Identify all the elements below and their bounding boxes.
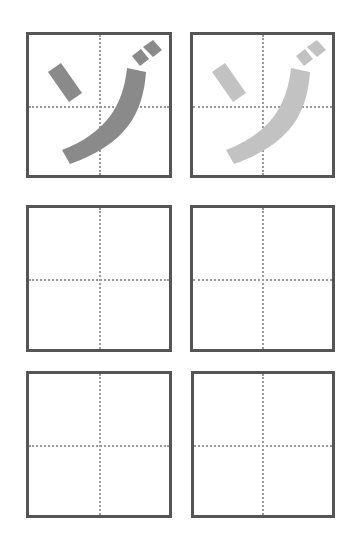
- practice-box-blank[interactable]: [190, 205, 335, 352]
- practice-box-blank[interactable]: [26, 371, 172, 518]
- stroke-short: [48, 63, 82, 102]
- dakuten-mark-1: [132, 49, 149, 66]
- guide-line-vertical: [99, 374, 101, 515]
- stroke-long: [62, 68, 146, 164]
- practice-box-blank[interactable]: [26, 205, 172, 352]
- guide-line-vertical: [99, 208, 101, 349]
- practice-box-trace: [190, 32, 335, 178]
- guide-line-vertical: [262, 374, 264, 515]
- guide-line-horizontal: [29, 279, 169, 281]
- katakana-zo-glyph-dark: [26, 32, 172, 178]
- handwriting-practice-sheet: [0, 0, 354, 549]
- practice-box-blank[interactable]: [191, 371, 335, 518]
- dakuten-mark-2: [143, 40, 162, 57]
- guide-line-horizontal: [194, 445, 332, 447]
- guide-line-horizontal: [29, 445, 169, 447]
- dakuten-mark-1: [296, 49, 313, 66]
- stroke-short: [212, 63, 246, 102]
- practice-box-model: [26, 32, 172, 178]
- guide-line-vertical: [262, 208, 264, 349]
- katakana-zo-glyph-light: [190, 32, 336, 178]
- guide-line-horizontal: [193, 279, 332, 281]
- dakuten-mark-2: [307, 40, 326, 57]
- stroke-long: [226, 68, 310, 164]
